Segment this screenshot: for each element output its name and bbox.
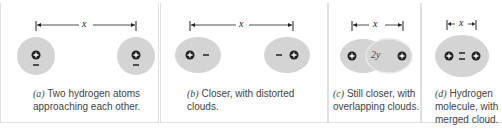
caption-c-label: (c) bbox=[333, 88, 344, 99]
caption-c: (c) Still closer, with overlapping cloud… bbox=[333, 87, 423, 113]
distance-label-c: x bbox=[373, 18, 377, 29]
caption-d: (d) Hydrogen molecule, with merged cloud… bbox=[435, 87, 501, 126]
panel-c: x 2y (c) Still closer, with overlapping … bbox=[328, 3, 421, 123]
caption-a-text: Two hydrogen atoms approaching each othe… bbox=[33, 88, 140, 112]
panel-b: x (b) Closer, with distorted clouds. bbox=[160, 3, 328, 123]
overlap-label-2y: 2y bbox=[371, 49, 380, 60]
distance-label-d: x bbox=[459, 17, 463, 28]
caption-c-text: Still closer, with overlapping clouds. bbox=[333, 88, 419, 112]
panel-d: x (d) Hydrogen molecule, with merged clo… bbox=[421, 3, 502, 123]
caption-b-text: Closer, with distorted clouds. bbox=[187, 88, 294, 112]
caption-a: (a) Two hydrogen atoms approaching each … bbox=[33, 87, 158, 113]
caption-b-label: (b) bbox=[187, 88, 199, 99]
distance-label-b: x bbox=[239, 18, 243, 29]
caption-a-label: (a) bbox=[33, 88, 45, 99]
distance-label-a: x bbox=[82, 18, 86, 29]
caption-b: (b) Closer, with distorted clouds. bbox=[187, 87, 317, 113]
caption-d-label: (d) bbox=[435, 88, 447, 99]
panel-a: x (a) Two hydrogen atoms approaching eac… bbox=[0, 3, 159, 123]
